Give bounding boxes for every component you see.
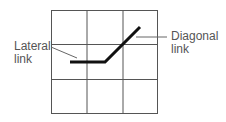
diagonal-link-label: Diagonal link <box>171 30 218 56</box>
lateral-link-label: Lateral link <box>14 40 51 66</box>
lateral-label-line2: link <box>14 53 51 66</box>
diagonal-label-line2: link <box>171 43 218 56</box>
lateral-leader-line <box>51 47 77 58</box>
